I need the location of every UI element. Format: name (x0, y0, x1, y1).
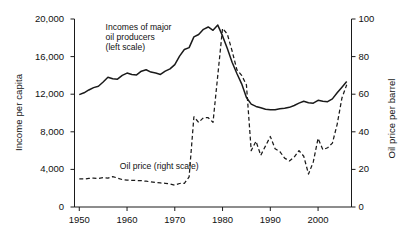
income-series-line (79, 25, 346, 110)
oil-price-series-line (79, 28, 346, 185)
axes-group (71, 19, 356, 211)
dual-axis-line-chart: Income per capita Oil price per barrel 0… (0, 0, 408, 249)
plot-area (0, 0, 408, 249)
series-group (79, 25, 346, 185)
